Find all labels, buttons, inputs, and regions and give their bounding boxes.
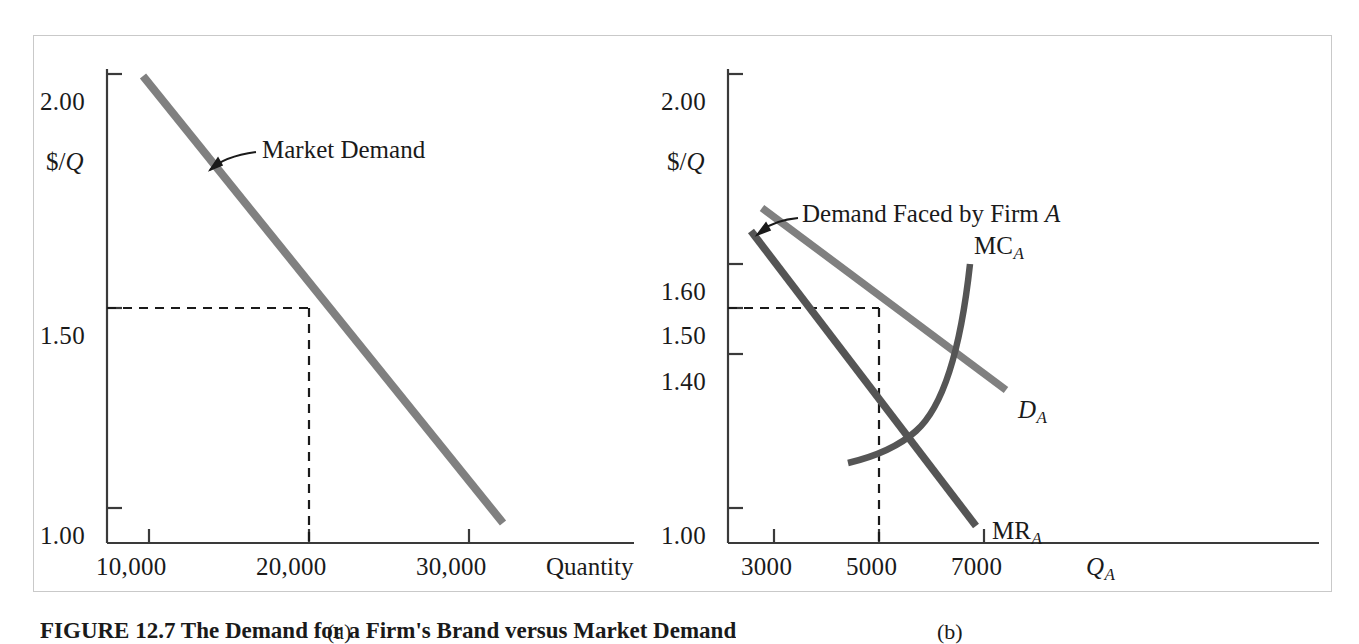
panel-b-firm-demand: 2.00 $/Q 1.60 1.50 1.40 1.00 3000 5000 7… <box>654 36 1333 593</box>
figure-frame: 2.00 $/Q 1.50 1.00 10,000 20,000 30,000 … <box>33 35 1332 592</box>
figure-caption-number: FIGURE 12.7 <box>40 618 175 639</box>
market-demand-arrow <box>210 152 256 170</box>
figure-caption-text: The Demand for a Firm's Brand versus Mar… <box>175 618 736 639</box>
market-demand-annotation: Market Demand <box>262 137 425 162</box>
panel-b-xtick-5000: 5000 <box>846 554 897 579</box>
panel-b-ytick-2-00: 2.00 <box>661 89 706 114</box>
panel-a-ytick-1-00: 1.00 <box>40 523 85 548</box>
panel-a-xtick-20000: 20,000 <box>256 554 327 579</box>
figure-caption: FIGURE 12.7 The Demand for a Firm's Bran… <box>40 618 736 639</box>
panel-b-x-axis-label: QA <box>1086 554 1115 583</box>
panel-b-y-ticks <box>728 74 743 508</box>
panel-b-ytick-1-60: 1.60 <box>661 279 706 304</box>
marginal-cost-curve <box>848 264 970 463</box>
panel-a-x-axis-label: Quantity <box>546 554 634 579</box>
mc-curve-label: MCA <box>974 233 1024 262</box>
panel-b-ytick-1-00: 1.00 <box>661 523 706 548</box>
panel-a-plot <box>34 36 654 593</box>
mr-curve-label: MRA <box>992 518 1042 547</box>
panel-b-plot <box>654 36 1333 593</box>
panel-b-xtick-7000: 7000 <box>951 554 1002 579</box>
panel-a-guide-lines <box>107 308 309 543</box>
panel-a-ytick-1-50: 1.50 <box>40 323 85 348</box>
panel-a-xtick-10000: 10,000 <box>96 554 167 579</box>
panel-b-axes <box>728 69 1319 543</box>
panel-b-ytick-1-40: 1.40 <box>661 369 706 394</box>
d-curve-label: DA <box>1018 397 1047 426</box>
panel-b-y-axis-label: $/Q <box>667 149 705 174</box>
firm-demand-annotation: Demand Faced by Firm A <box>802 201 1060 226</box>
panel-b-ytick-1-50: 1.50 <box>661 323 706 348</box>
panel-b-xtick-3000: 3000 <box>741 554 792 579</box>
marginal-revenue-curve <box>751 231 976 526</box>
panel-a-xtick-30000: 30,000 <box>416 554 487 579</box>
panel-a-ytick-2-00: 2.00 <box>40 89 85 114</box>
panel-b-letter: (b) <box>937 621 963 643</box>
panel-b-guide-lines <box>728 308 879 543</box>
panel-a-y-ticks <box>107 74 122 508</box>
panel-a-y-axis-label: $/Q <box>46 149 84 174</box>
panel-a-market-demand: 2.00 $/Q 1.50 1.00 10,000 20,000 30,000 … <box>34 36 654 593</box>
